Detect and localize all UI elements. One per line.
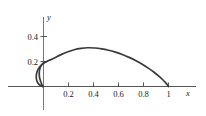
y-tick-label-0.2: 0.2 [27, 57, 38, 67]
x-tick-label-0.4: 0.4 [88, 89, 99, 99]
x-tick-label-1: 1 [166, 89, 170, 99]
plot-svg: 0.2 0.4 0.6 0.8 1 0.2 0.4 x y [0, 0, 206, 116]
x-tick-label-0.2: 0.2 [63, 89, 74, 99]
plot-curve-loop [39, 62, 46, 87]
figure-container: 0.2 0.4 0.6 0.8 1 0.2 0.4 x y [0, 0, 206, 116]
plot-curve [36, 48, 168, 87]
x-axis-label: x [185, 88, 190, 98]
x-tick-label-0.6: 0.6 [113, 89, 124, 99]
y-axis-label: y [46, 12, 51, 22]
x-tick-label-0.8: 0.8 [138, 89, 149, 99]
y-tick-label-0.4: 0.4 [27, 32, 38, 42]
x-axis-ticks [69, 83, 169, 87]
